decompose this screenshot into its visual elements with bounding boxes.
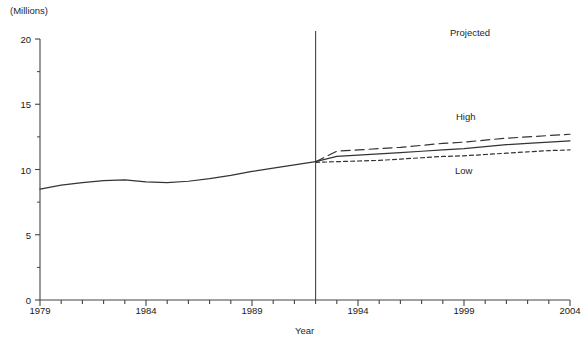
series-line-low bbox=[316, 150, 570, 162]
y-tick-label: 5 bbox=[7, 230, 31, 241]
x-axis-title: Year bbox=[295, 326, 314, 336]
x-tick-label: 1984 bbox=[126, 305, 166, 316]
y-tick-label: 20 bbox=[7, 34, 31, 45]
x-tick-label: 2004 bbox=[550, 305, 585, 316]
y-tick-label: 10 bbox=[7, 165, 31, 176]
axes-group bbox=[40, 39, 570, 300]
annotation-high: High bbox=[456, 112, 476, 122]
series-lines bbox=[40, 134, 570, 189]
series-line-high bbox=[316, 134, 570, 161]
y-tick-label: 15 bbox=[7, 99, 31, 110]
annotation-low: Low bbox=[455, 166, 472, 176]
x-tick-label: 1979 bbox=[20, 305, 60, 316]
x-tick-label: 1994 bbox=[338, 305, 378, 316]
x-tick-label: 1999 bbox=[444, 305, 484, 316]
tick-marks bbox=[35, 39, 570, 306]
series-line-actual bbox=[40, 162, 316, 189]
annotation-projected: Projected bbox=[450, 28, 490, 38]
x-tick-label: 1989 bbox=[232, 305, 272, 316]
